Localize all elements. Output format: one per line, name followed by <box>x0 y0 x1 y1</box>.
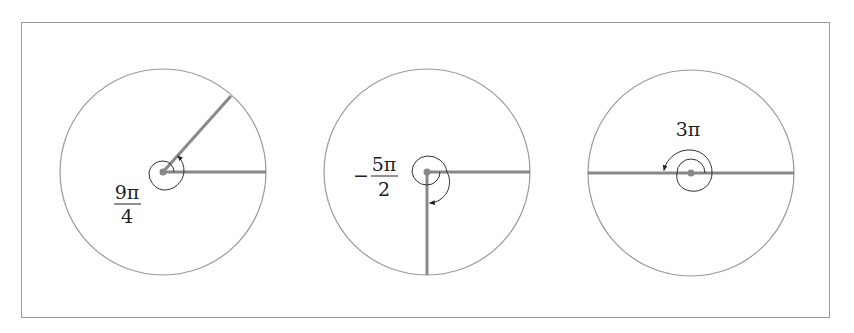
terminal-ray <box>163 96 231 172</box>
svg-text:2: 2 <box>378 178 390 200</box>
angle-label: 9π 4 <box>114 181 141 227</box>
angle-label: − 5π 2 <box>353 153 398 200</box>
svg-text:5π: 5π <box>372 153 397 175</box>
rotation-spiral <box>412 156 450 203</box>
center-dot <box>424 169 431 176</box>
rotation-spiral <box>664 150 712 191</box>
diagram-neg-5pi-over-2: − 5π 2 <box>324 69 530 275</box>
radian-angle-diagram: 9π 4 − 5π 2 3π <box>0 0 854 333</box>
svg-text:9π: 9π <box>115 181 140 203</box>
svg-text:−: − <box>353 164 369 186</box>
center-dot <box>688 170 695 177</box>
center-dot <box>160 169 167 176</box>
angle-label: 3π <box>676 118 701 140</box>
diagram-3pi: 3π <box>588 70 794 276</box>
svg-text:4: 4 <box>121 205 133 227</box>
diagram-9pi-over-4: 9π 4 <box>60 69 266 275</box>
